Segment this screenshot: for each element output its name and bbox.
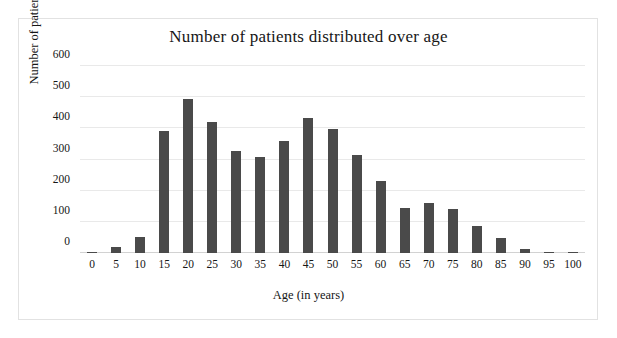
bar-age-85 bbox=[496, 238, 506, 253]
x-tick-label-95: 95 bbox=[543, 258, 555, 270]
y-tick-label-100: 100 bbox=[30, 204, 70, 216]
plot-area: 0100200300400500600 05101520253035404550… bbox=[80, 66, 585, 253]
bar-age-0 bbox=[87, 252, 97, 253]
x-tick-label-15: 15 bbox=[158, 258, 170, 270]
bar-age-10 bbox=[135, 237, 145, 253]
bar-age-95 bbox=[544, 252, 554, 253]
chart-figure: Number of patients distributed over age … bbox=[0, 0, 617, 338]
bar-age-15 bbox=[159, 131, 169, 253]
bar-age-65 bbox=[400, 208, 410, 253]
x-tick-label-75: 75 bbox=[447, 258, 459, 270]
x-tick-label-60: 60 bbox=[375, 258, 387, 270]
x-tick-label-50: 50 bbox=[327, 258, 339, 270]
y-tick-label-400: 400 bbox=[30, 110, 70, 122]
y-tick-label-300: 300 bbox=[30, 142, 70, 154]
bar-age-30 bbox=[231, 151, 241, 253]
x-tick-label-25: 25 bbox=[207, 258, 219, 270]
x-tick-label-0: 0 bbox=[89, 258, 95, 270]
bar-age-40 bbox=[279, 141, 289, 254]
y-tick-label-200: 200 bbox=[30, 173, 70, 185]
x-tick-label-45: 45 bbox=[303, 258, 315, 270]
bar-age-5 bbox=[111, 247, 121, 253]
bar-age-60 bbox=[376, 181, 386, 253]
bar-age-70 bbox=[424, 203, 434, 253]
x-tick-label-30: 30 bbox=[231, 258, 243, 270]
x-tick-label-10: 10 bbox=[134, 258, 146, 270]
bar-age-20 bbox=[183, 99, 193, 253]
x-tick-label-80: 80 bbox=[471, 258, 483, 270]
bar-age-100 bbox=[568, 252, 578, 253]
x-axis-label: Age (in years) bbox=[0, 288, 617, 303]
y-axis-label: Number of patients (n) bbox=[27, 0, 42, 108]
bar-age-55 bbox=[352, 155, 362, 253]
bar-age-25 bbox=[207, 122, 217, 253]
bar-age-90 bbox=[520, 249, 530, 253]
bar-age-45 bbox=[303, 118, 313, 253]
x-tick-label-70: 70 bbox=[423, 258, 435, 270]
x-tick-label-40: 40 bbox=[279, 258, 291, 270]
x-tick-label-85: 85 bbox=[495, 258, 507, 270]
x-tick-label-65: 65 bbox=[399, 258, 411, 270]
bar-age-35 bbox=[255, 157, 265, 253]
x-tick-label-20: 20 bbox=[182, 258, 194, 270]
bar-series bbox=[80, 66, 585, 253]
x-tick-label-55: 55 bbox=[351, 258, 363, 270]
bar-age-50 bbox=[328, 129, 338, 253]
bar-age-80 bbox=[472, 226, 482, 253]
x-tick-label-90: 90 bbox=[519, 258, 531, 270]
y-axis-label-prefix: Number of patients ( bbox=[27, 0, 41, 85]
x-tick-label-35: 35 bbox=[255, 258, 267, 270]
x-tick-label-100: 100 bbox=[564, 258, 581, 270]
chart-title: Number of patients distributed over age bbox=[0, 27, 617, 47]
x-tick-label-5: 5 bbox=[113, 258, 119, 270]
bar-age-75 bbox=[448, 209, 458, 253]
y-tick-label-0: 0 bbox=[30, 235, 70, 247]
